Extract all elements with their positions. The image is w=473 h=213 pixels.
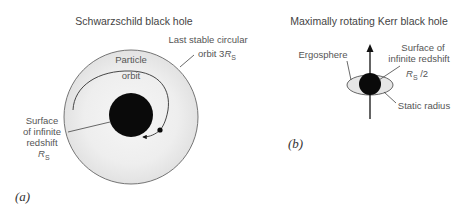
panel-a-tag: (a) <box>15 189 30 204</box>
last-stable-label-line1: Last stable circular <box>168 34 247 45</box>
panel-a-schwarzschild: Schwarzschild black hole Particle orbit … <box>15 15 248 204</box>
kerr-radius-label: RS /2 <box>406 68 428 81</box>
surface-label-line2: of infinite <box>23 126 61 137</box>
orbit-label: orbit <box>122 70 141 81</box>
rotation-arrowhead-icon <box>367 44 374 52</box>
kerr-surface-label-line1: Surface of <box>401 42 445 53</box>
particle-label: Particle <box>115 54 147 65</box>
kerr-surface-pointer-line <box>379 66 400 80</box>
surface-radius-label: RS <box>38 148 50 161</box>
particle-dot <box>157 127 162 132</box>
last-stable-label-line2: orbit 3RS <box>198 48 236 61</box>
surface-label-line1: Surface <box>26 115 59 126</box>
panel-a-title: Schwarzschild black hole <box>75 15 192 27</box>
last-stable-pointer-line <box>180 55 194 67</box>
static-radius-pointer-line <box>384 92 396 103</box>
event-horizon-disc <box>109 93 153 137</box>
panel-b-title: Maximally rotating Kerr black hole <box>290 15 448 27</box>
panel-b-tag: (b) <box>288 136 303 151</box>
panel-b-kerr: Maximally rotating Kerr black hole Ergos… <box>288 15 450 151</box>
kerr-horizon-disc <box>359 73 381 95</box>
static-radius-label: Static radius <box>398 100 451 111</box>
ergosphere-pointer-line <box>347 61 351 80</box>
black-hole-figure: Schwarzschild black hole Particle orbit … <box>0 0 473 213</box>
ergosphere-label: Ergosphere <box>298 49 347 60</box>
kerr-surface-label-line2: infinite redshift <box>388 53 450 64</box>
surface-label-line3: redshift <box>26 137 58 148</box>
